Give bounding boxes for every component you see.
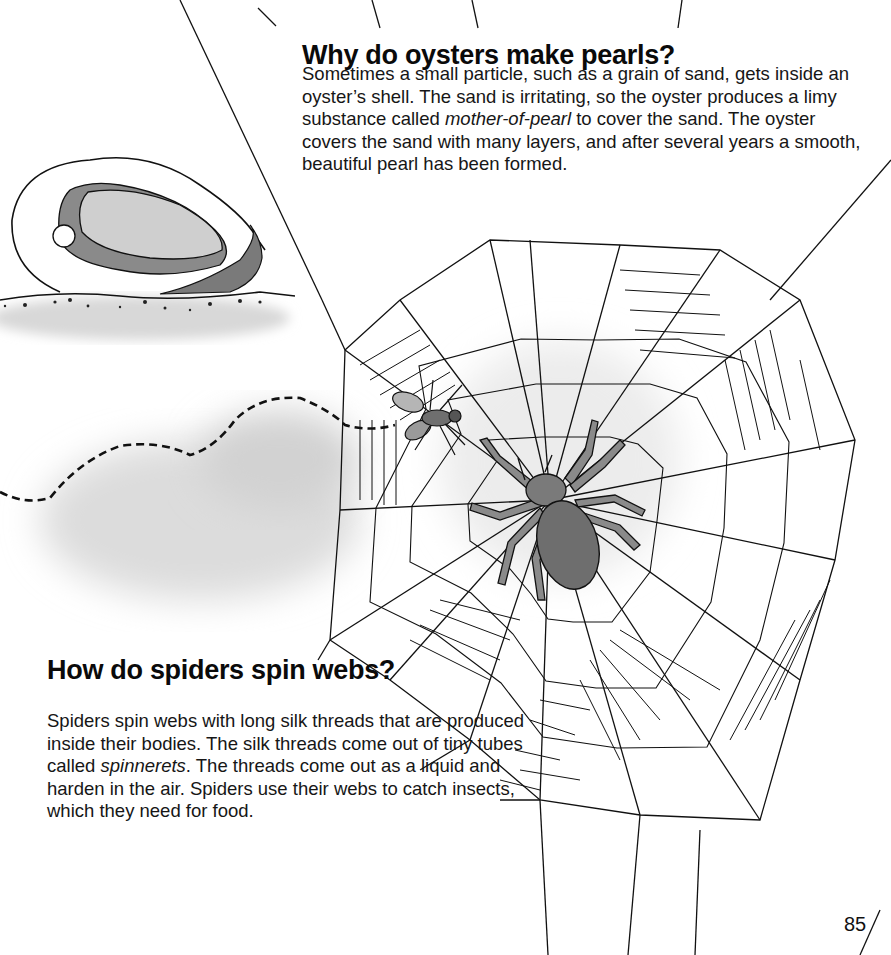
section-body-spiders: Spiders spin webs with long silk threads…: [47, 710, 527, 823]
section-title-spiders: How do spiders spin webs?: [47, 655, 395, 686]
term-mother-of-pearl: mother-of-pearl: [445, 108, 571, 129]
section-body-oysters: Sometimes a small particle, such as a gr…: [302, 63, 862, 176]
oyster-with-pearl-illustration: [0, 158, 295, 340]
term-spinnerets: spinnerets: [100, 755, 185, 776]
page-number: 85: [844, 913, 866, 936]
